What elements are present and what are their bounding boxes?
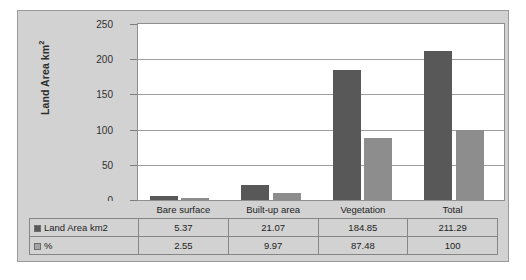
table-header-row: Bare surface Built-up area Vegetation To… — [30, 201, 498, 219]
bar-group-bare-surface — [138, 24, 230, 200]
bar-vegetation-percent — [364, 138, 392, 200]
row-header-land-area-label: Land Area km2 — [44, 222, 108, 233]
bar-total-percent — [456, 130, 484, 200]
column-header-total: Total — [408, 201, 498, 219]
row-header-percent-label: % — [44, 240, 52, 251]
chart-panel: Land Area km2 250 200 150 100 50 0 — [17, 10, 509, 262]
bar-built-up-area-land-area — [241, 185, 269, 200]
y-tick-mark-100 — [130, 130, 137, 131]
bar-group-total — [413, 24, 505, 200]
row-header-land-area: Land Area km2 — [30, 219, 139, 237]
table-corner-cell — [30, 201, 139, 219]
cell-percent-bare-surface: 2.55 — [139, 237, 229, 255]
y-axis-title: Land Area km2 — [37, 8, 51, 148]
cell-percent-total: 100 — [408, 237, 498, 255]
y-tick-label-150: 150 — [53, 89, 113, 100]
cell-land-area-vegetation: 184.85 — [318, 219, 408, 237]
cell-land-area-built-up-area: 21.07 — [228, 219, 318, 237]
row-header-percent: % — [30, 237, 139, 255]
y-tick-label-100: 100 — [53, 124, 113, 135]
cell-land-area-total: 211.29 — [408, 219, 498, 237]
chart-data-table: Bare surface Built-up area Vegetation To… — [29, 201, 498, 255]
bar-bare-surface-percent — [181, 198, 209, 200]
cell-percent-vegetation: 87.48 — [318, 237, 408, 255]
legend-swatch-land-area-icon — [34, 225, 41, 232]
y-tick-mark-50 — [130, 165, 137, 166]
column-header-built-up-area: Built-up area — [228, 201, 318, 219]
column-header-bare-surface: Bare surface — [139, 201, 229, 219]
bar-group-vegetation — [321, 24, 413, 200]
y-tick-label-200: 200 — [53, 54, 113, 65]
y-tick-mark-150 — [130, 94, 137, 95]
table-row: % 2.55 9.97 87.48 100 — [30, 237, 498, 255]
y-tick-label-250: 250 — [53, 19, 113, 30]
table-row: Land Area km2 5.37 21.07 184.85 211.29 — [30, 219, 498, 237]
y-tick-label-50: 50 — [53, 159, 113, 170]
chart-screenshot: Land Area km2 250 200 150 100 50 0 — [0, 0, 526, 280]
bars-layer — [138, 24, 504, 200]
bar-built-up-area-percent — [273, 193, 301, 200]
column-header-vegetation: Vegetation — [318, 201, 408, 219]
bar-vegetation-land-area — [333, 70, 361, 200]
bar-bare-surface-land-area — [150, 196, 178, 200]
cell-land-area-bare-surface: 5.37 — [139, 219, 229, 237]
bar-group-built-up-area — [230, 24, 322, 200]
y-tick-mark-250 — [130, 24, 137, 25]
cell-percent-built-up-area: 9.97 — [228, 237, 318, 255]
y-axis-title-text: Land Area km — [39, 45, 51, 115]
y-tick-mark-200 — [130, 59, 137, 60]
plot-wrapper: 250 200 150 100 50 0 — [119, 23, 505, 201]
legend-swatch-percent-icon — [34, 243, 41, 250]
bar-total-land-area — [424, 51, 452, 200]
y-axis-title-exponent: 2 — [37, 40, 46, 44]
